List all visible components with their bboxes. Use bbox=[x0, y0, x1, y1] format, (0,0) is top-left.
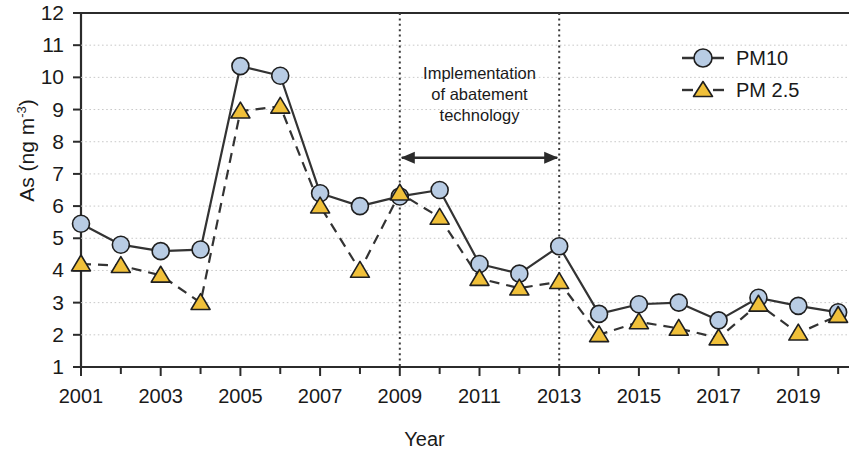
marker-pm10-2002 bbox=[112, 236, 129, 253]
marker-pm25-2001 bbox=[72, 255, 91, 271]
x-tick-label-2005: 2005 bbox=[200, 386, 280, 406]
x-tick-label-2007: 2007 bbox=[280, 386, 360, 406]
implementation-annotation-line-2: of abatement bbox=[385, 84, 575, 105]
y-tick-label-10: 10 bbox=[18, 66, 64, 87]
marker-pm25-2011 bbox=[470, 269, 489, 285]
implementation-annotation-line-1: Implementation bbox=[385, 63, 575, 84]
implementation-annotation: Implementationof abatementtechnology bbox=[385, 63, 575, 126]
abatement-arrow-head-left bbox=[401, 152, 415, 164]
marker-pm25-2008 bbox=[350, 261, 369, 277]
marker-pm10-2010 bbox=[431, 182, 448, 199]
marker-pm10-2004 bbox=[192, 241, 209, 258]
chart-root: As (ng m-3) Year 12111098765432120012003… bbox=[0, 0, 849, 462]
y-tick-label-11: 11 bbox=[18, 34, 64, 55]
y-tick-label-9: 9 bbox=[18, 99, 64, 120]
y-tick-label-2: 2 bbox=[18, 324, 64, 345]
marker-pm10-2016 bbox=[670, 294, 687, 311]
marker-pm10-2013 bbox=[551, 238, 568, 255]
marker-pm25-2004 bbox=[191, 294, 210, 310]
x-tick-label-2017: 2017 bbox=[679, 386, 759, 406]
legend-marker-pm10 bbox=[694, 49, 712, 67]
marker-pm25-2015 bbox=[629, 313, 648, 329]
x-tick-label-2013: 2013 bbox=[519, 386, 599, 406]
x-tick-label-2003: 2003 bbox=[121, 386, 201, 406]
y-tick-label-1: 1 bbox=[18, 356, 64, 377]
x-tick-label-2011: 2011 bbox=[440, 386, 520, 406]
y-tick-label-5: 5 bbox=[18, 227, 64, 248]
marker-pm10-2014 bbox=[591, 305, 608, 322]
implementation-annotation-line-3: technology bbox=[385, 105, 575, 126]
legend-marker-pm25 bbox=[694, 82, 713, 97]
abatement-arrow-head-right bbox=[544, 152, 558, 164]
marker-pm10-2008 bbox=[351, 198, 368, 215]
marker-pm10-2017 bbox=[710, 312, 727, 329]
y-tick-label-12: 12 bbox=[18, 2, 64, 23]
y-tick-label-8: 8 bbox=[18, 131, 64, 152]
marker-pm25-2017 bbox=[709, 329, 728, 345]
y-tick-label-7: 7 bbox=[18, 163, 64, 184]
y-tick-label-3: 3 bbox=[18, 292, 64, 313]
marker-pm10-2005 bbox=[232, 58, 249, 75]
marker-pm10-2015 bbox=[630, 296, 647, 313]
marker-pm25-2010 bbox=[430, 208, 449, 224]
y-tick-label-4: 4 bbox=[18, 259, 64, 280]
marker-pm25-2006 bbox=[271, 97, 290, 113]
marker-pm10-2006 bbox=[272, 67, 289, 84]
marker-pm25-2013 bbox=[550, 273, 569, 289]
legend-label-pm25: PM 2.5 bbox=[736, 80, 799, 100]
marker-pm10-2019 bbox=[790, 297, 807, 314]
x-tick-label-2015: 2015 bbox=[599, 386, 679, 406]
x-tick-label-2019: 2019 bbox=[758, 386, 838, 406]
marker-pm25-2002 bbox=[111, 257, 130, 273]
y-tick-label-6: 6 bbox=[18, 195, 64, 216]
legend-label-pm10: PM10 bbox=[736, 48, 788, 68]
x-tick-label-2009: 2009 bbox=[360, 386, 440, 406]
marker-pm10-2003 bbox=[152, 243, 169, 260]
x-tick-label-2001: 2001 bbox=[41, 386, 121, 406]
marker-pm25-2019 bbox=[789, 324, 808, 340]
marker-pm10-2001 bbox=[73, 215, 90, 232]
